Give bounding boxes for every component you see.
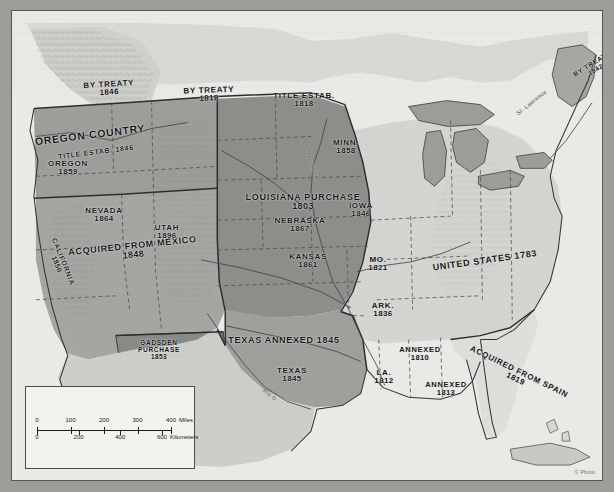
scale-tick-km: 400 [115, 434, 125, 440]
scale-bar [37, 427, 187, 434]
scale-tick-km: 200 [74, 434, 84, 440]
scale-miles-numbers: 0100200300400Miles [37, 417, 187, 427]
map-credit: © Photo [575, 469, 595, 475]
scale-unit-kilometers: Kilometers [170, 434, 198, 440]
scale-tick-km: 0 [35, 434, 38, 440]
scale-tick-miles: 300 [132, 417, 142, 423]
scale-tick-miles: 100 [65, 417, 75, 423]
scale-tick-miles: 0 [35, 417, 38, 423]
scale-tick-miles: 400 [166, 417, 176, 423]
scale-tick-mark [171, 427, 172, 434]
scale-legend: 0100200300400Miles 0200400600Kilometers [25, 386, 195, 469]
lake-michigan [423, 130, 447, 186]
scale-unit-miles: Miles [179, 417, 193, 423]
scale-tick-mark [71, 427, 72, 434]
map-frame: BY TREATY1846BY TREATY1818TITLE ESTAB.18… [0, 0, 614, 492]
map-canvas: BY TREATY1846BY TREATY1818TITLE ESTAB.18… [11, 10, 603, 481]
scale-tick-miles: 200 [99, 417, 109, 423]
scale-tick-mark [104, 427, 105, 434]
scale-tick-mark [138, 427, 139, 434]
scale-km-numbers: 0200400600Kilometers [37, 434, 187, 444]
scale-tick-km: 600 [157, 434, 167, 440]
